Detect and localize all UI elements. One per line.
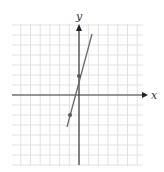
x-axis-arrow-icon (142, 92, 148, 98)
coordinate-plane: x y (0, 0, 164, 172)
y-axis-label: y (75, 10, 83, 23)
point-neg1-neg2 (68, 113, 72, 117)
point-0-2 (77, 74, 81, 78)
x-axis-label: x (151, 89, 158, 102)
